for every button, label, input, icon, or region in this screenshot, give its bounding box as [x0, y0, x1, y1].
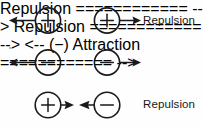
row-1-label: Repulsion	[143, 15, 195, 27]
row-2-graphics	[0, 42, 203, 84]
diagram-row-attraction: Attraction	[0, 84, 203, 126]
plus-sign-right-row-1	[101, 14, 114, 27]
force-arrow-right-row-3	[79, 101, 94, 110]
force-arrow-left-row-1	[9, 17, 35, 25]
scan-artifact-speck	[9, 47, 11, 49]
force-arrow-left-row-3	[62, 101, 75, 110]
force-arrow-right-row-1	[120, 17, 141, 25]
plus-sign-left-row-3	[42, 99, 55, 112]
diagram-row-repulsion-positive: Repulsion	[0, 0, 203, 42]
force-arrow-right-row-2	[120, 59, 141, 67]
plus-sign-left-row-1	[42, 14, 55, 27]
row-3-graphics	[0, 84, 203, 126]
diagram-row-repulsion-negative: Repulsion	[0, 42, 203, 84]
charge-interaction-diagram: Repulsion ============ -->	[0, 0, 203, 126]
force-arrow-left-row-2	[9, 59, 35, 67]
